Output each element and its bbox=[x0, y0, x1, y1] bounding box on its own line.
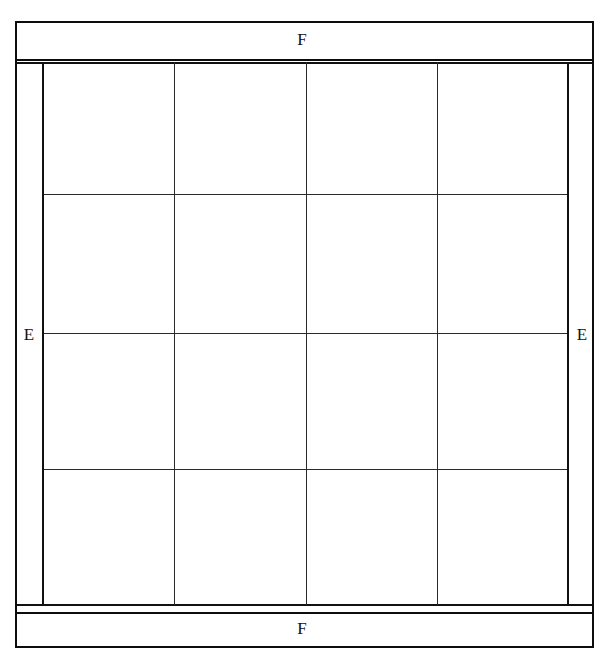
grid-cell bbox=[439, 336, 566, 468]
bottom-band-label: F bbox=[282, 620, 322, 637]
right-band-label: E bbox=[572, 326, 592, 343]
grid-cell bbox=[44, 64, 172, 193]
frame-bottom-rule bbox=[15, 646, 594, 648]
right-band-inner-rule bbox=[567, 62, 569, 605]
grid-col-rule-3 bbox=[437, 62, 438, 605]
bottom-band-top-rule bbox=[15, 612, 594, 614]
grid-row-rule-1 bbox=[42, 194, 568, 195]
grid-cell bbox=[439, 197, 566, 332]
left-band-label: E bbox=[19, 326, 39, 343]
grid-cell bbox=[308, 64, 435, 193]
grid-cell bbox=[44, 336, 172, 468]
grid-cell bbox=[176, 64, 304, 193]
grid-cell bbox=[308, 197, 435, 332]
grid-cell bbox=[439, 472, 566, 603]
grid-top-rule bbox=[15, 62, 594, 64]
diagram-canvas: F F E E bbox=[0, 0, 609, 661]
grid-cell bbox=[176, 197, 304, 332]
top-band-label: F bbox=[282, 31, 322, 48]
frame-right-rule bbox=[592, 21, 594, 648]
grid-cell bbox=[308, 472, 435, 603]
grid-cell bbox=[44, 197, 172, 332]
grid-cell bbox=[308, 336, 435, 468]
top-band-bottom-rule bbox=[15, 59, 594, 61]
left-band-inner-rule bbox=[42, 62, 44, 605]
grid-col-rule-2 bbox=[306, 62, 307, 605]
grid-col-rule-1 bbox=[174, 62, 175, 605]
grid-cell bbox=[176, 336, 304, 468]
grid-cell bbox=[439, 64, 566, 193]
grid-bottom-rule bbox=[15, 604, 594, 606]
grid-cell bbox=[176, 472, 304, 603]
grid-row-rule-2 bbox=[42, 333, 568, 334]
frame-top-rule bbox=[15, 21, 594, 23]
grid-row-rule-3 bbox=[42, 469, 568, 470]
grid-cell bbox=[44, 472, 172, 603]
frame-left-rule bbox=[15, 21, 17, 648]
